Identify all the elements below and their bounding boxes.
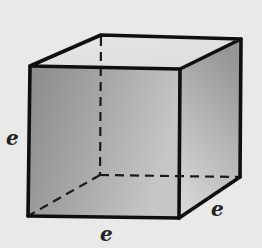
edge-label-depth: e — [211, 199, 224, 219]
cube-diagram: e e e — [0, 0, 262, 248]
back-right-edge — [240, 39, 241, 177]
edge-label-bottom: e — [100, 224, 113, 244]
edge-label-left: e — [6, 128, 19, 148]
front-bottom-edge — [28, 216, 179, 218]
front-right-edge — [179, 69, 180, 218]
front-face — [28, 66, 180, 218]
front-left-edge — [28, 66, 30, 216]
